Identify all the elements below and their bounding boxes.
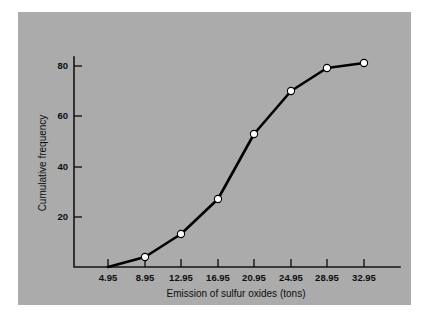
y-axis-title: Cumulative frequency	[37, 115, 48, 212]
chart-plot: 80 60 40 20 4.95 8.95 12.95 16.95 20.95 …	[0, 0, 429, 331]
y-tick-label-60: 60	[57, 110, 68, 121]
data-point-markers	[141, 59, 367, 260]
axis-spines	[74, 57, 400, 267]
cumulative-frequency-line	[108, 63, 364, 267]
data-point-32-95	[360, 59, 367, 66]
x-axis-title: Emission of sulfur oxides (tons)	[167, 288, 306, 299]
x-tick-label-32-95: 32.95	[352, 272, 376, 283]
x-tick-label-8-95: 8.95	[136, 272, 155, 283]
data-point-12-95	[177, 230, 184, 237]
x-tick-label-20-95: 20.95	[242, 272, 266, 283]
x-tick-label-12-95: 12.95	[169, 272, 193, 283]
data-point-8-95	[141, 253, 148, 260]
y-axis-ticks	[74, 66, 82, 217]
y-tick-label-80: 80	[57, 60, 68, 71]
x-tick-label-28-95: 28.95	[315, 272, 339, 283]
y-axis-tick-labels: 80 60 40 20	[57, 60, 68, 222]
y-tick-label-20: 20	[57, 211, 68, 222]
y-tick-label-40: 40	[57, 161, 68, 172]
data-point-28-95	[323, 64, 330, 71]
x-tick-label-4-95: 4.95	[99, 272, 118, 283]
data-point-24-95	[287, 87, 294, 94]
x-tick-label-16-95: 16.95	[206, 272, 230, 283]
figure-canvas: 80 60 40 20 4.95 8.95 12.95 16.95 20.95 …	[0, 0, 429, 331]
data-point-16-95	[214, 195, 221, 202]
x-tick-label-24-95: 24.95	[279, 272, 303, 283]
data-point-20-95	[250, 130, 257, 137]
x-axis-tick-labels: 4.95 8.95 12.95 16.95 20.95 24.95 28.95 …	[99, 272, 377, 283]
